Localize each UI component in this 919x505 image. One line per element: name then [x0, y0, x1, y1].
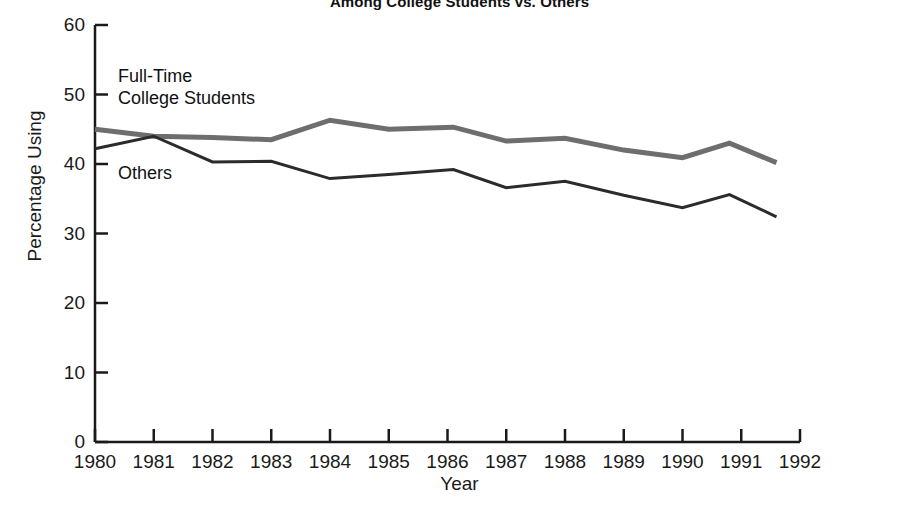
chart-container: Among College Students vs. Others Percen… [0, 0, 919, 505]
y-tick-label: 50 [39, 85, 85, 104]
y-tick-label: 60 [39, 15, 85, 34]
y-tick-label: 0 [39, 432, 85, 451]
y-tick-label: 30 [39, 224, 85, 243]
x-tick-label: 1992 [765, 452, 835, 471]
plot-area [0, 0, 919, 505]
y-tick-label: 20 [39, 293, 85, 312]
axis-layer [95, 25, 800, 442]
y-tick-label: 40 [39, 154, 85, 173]
series-layer [95, 120, 777, 217]
y-tick-label: 10 [39, 363, 85, 382]
series-line-others [95, 136, 777, 217]
